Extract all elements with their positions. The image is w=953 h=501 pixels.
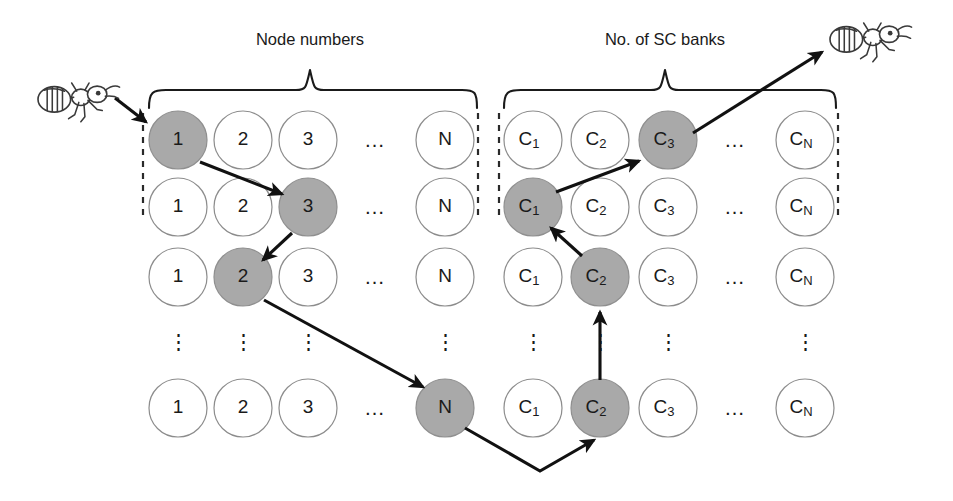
node-label: 2 [238, 128, 249, 149]
node-node-r2c5[interactable]: N [416, 178, 474, 236]
sc-node-r3c2[interactable]: C2 [571, 248, 629, 306]
node-layer: 123…N123…N123…N⋮⋮⋮⋮123…NC1C2C3…CNC1C2C3…… [149, 111, 834, 437]
node-label: N [438, 195, 452, 216]
node-node-r2c3[interactable]: 3 [279, 178, 337, 236]
brace-left [149, 70, 477, 108]
node-label: 1 [173, 128, 184, 149]
path-segment-2-to-N [264, 300, 423, 387]
node-node-r3c1[interactable]: 1 [149, 248, 207, 306]
horizontal-ellipsis: … [724, 396, 746, 419]
node-node-r1c2[interactable]: 2 [214, 111, 272, 169]
node-label: 1 [173, 195, 184, 216]
node-label: 2 [238, 265, 249, 286]
sc-node-r1c2[interactable]: C2 [571, 111, 629, 169]
node-node-r1c5[interactable]: N [416, 111, 474, 169]
sc-node-r1c5[interactable]: CN [776, 111, 834, 169]
vertical-ellipsis: ⋮ [168, 330, 189, 353]
sc-node-r3c5[interactable]: CN [776, 248, 834, 306]
node-node-r5c1[interactable]: 1 [149, 379, 207, 437]
node-node-r3c2[interactable]: 2 [214, 248, 272, 306]
node-label: 2 [238, 396, 249, 417]
horizontal-ellipsis: … [724, 195, 746, 218]
vertical-ellipsis: ⋮ [233, 330, 254, 353]
sc-node-r5c2[interactable]: C2 [571, 379, 629, 437]
node-label: 3 [303, 195, 314, 216]
vertical-ellipsis: ⋮ [523, 330, 544, 353]
ant-icon-start [38, 83, 120, 122]
node-node-r1c3[interactable]: 3 [279, 111, 337, 169]
ant-icon-end [830, 23, 912, 62]
sc-node-r3c1[interactable]: C1 [504, 248, 562, 306]
node-node-r2c1[interactable]: 1 [149, 178, 207, 236]
sc-node-r2c3[interactable]: C3 [639, 178, 697, 236]
vertical-ellipsis: ⋮ [435, 330, 456, 353]
ant-colony-tour-diagram: Node numbers No. of SC banks 123…N123…N1… [0, 0, 953, 501]
horizontal-ellipsis: … [724, 128, 746, 151]
horizontal-ellipsis: … [364, 265, 386, 288]
horizontal-ellipsis: … [364, 128, 386, 151]
node-label: 1 [173, 396, 184, 417]
node-label: 1 [173, 265, 184, 286]
node-label: 3 [303, 128, 314, 149]
node-label: N [438, 128, 452, 149]
sc-node-r5c5[interactable]: CN [776, 379, 834, 437]
node-node-r3c5[interactable]: N [416, 248, 474, 306]
node-label: 3 [303, 396, 314, 417]
path-segment-C2-to-C1 [551, 228, 582, 256]
diagram-canvas: Node numbers No. of SC banks 123…N123…N1… [0, 0, 953, 501]
horizontal-ellipsis: … [364, 396, 386, 419]
left-group-label: Node numbers [256, 30, 364, 48]
path-segment-ant-to-node1 [115, 98, 146, 122]
sc-node-r2c1[interactable]: C1 [504, 178, 562, 236]
right-group-label: No. of SC banks [605, 30, 725, 48]
sc-node-r5c1[interactable]: C1 [504, 379, 562, 437]
sc-node-r5c3[interactable]: C3 [639, 379, 697, 437]
sc-node-r3c3[interactable]: C3 [639, 248, 697, 306]
node-label: N [438, 265, 452, 286]
vertical-ellipsis: ⋮ [298, 330, 319, 353]
horizontal-ellipsis: … [724, 265, 746, 288]
sc-node-r1c3[interactable]: C3 [639, 111, 697, 169]
vertical-ellipsis: ⋮ [658, 330, 679, 353]
horizontal-ellipsis: … [364, 195, 386, 218]
node-label: 2 [238, 195, 249, 216]
node-node-r5c2[interactable]: 2 [214, 379, 272, 437]
node-node-r5c3[interactable]: 3 [279, 379, 337, 437]
vertical-ellipsis: ⋮ [795, 330, 816, 353]
node-label: N [438, 396, 452, 417]
node-label: 3 [303, 265, 314, 286]
sc-node-r1c1[interactable]: C1 [504, 111, 562, 169]
node-node-r1c1[interactable]: 1 [149, 111, 207, 169]
node-node-r3c3[interactable]: 3 [279, 248, 337, 306]
sc-node-r2c2[interactable]: C2 [571, 178, 629, 236]
sc-node-r2c5[interactable]: CN [776, 178, 834, 236]
